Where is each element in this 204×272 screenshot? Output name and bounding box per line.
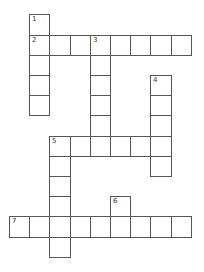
crossword-cell[interactable]: 7 bbox=[9, 216, 30, 238]
crossword-cell[interactable] bbox=[90, 75, 111, 96]
crossword-cell[interactable] bbox=[90, 55, 111, 76]
crossword-cell[interactable] bbox=[150, 216, 172, 238]
crossword-cell[interactable] bbox=[49, 237, 71, 258]
crossword-cell[interactable] bbox=[29, 75, 50, 96]
crossword-cell[interactable] bbox=[70, 216, 91, 238]
clue-number: 7 bbox=[12, 217, 16, 226]
clue-number: 4 bbox=[153, 76, 157, 85]
crossword-cell[interactable] bbox=[29, 55, 50, 76]
crossword-cell[interactable] bbox=[110, 35, 131, 56]
crossword-cell[interactable] bbox=[49, 176, 71, 197]
crossword-cell[interactable] bbox=[150, 35, 172, 56]
crossword-cell[interactable] bbox=[49, 156, 71, 177]
crossword-grid: 1234567 bbox=[0, 0, 204, 272]
crossword-cell[interactable]: 1 bbox=[29, 14, 50, 36]
crossword-cell[interactable] bbox=[49, 196, 71, 217]
crossword-cell[interactable] bbox=[150, 115, 172, 137]
crossword-cell[interactable] bbox=[29, 95, 50, 116]
crossword-cell[interactable] bbox=[171, 35, 192, 56]
crossword-cell[interactable] bbox=[90, 115, 111, 137]
crossword-cell[interactable] bbox=[49, 216, 71, 238]
crossword-cell[interactable] bbox=[90, 216, 111, 238]
crossword-cell[interactable]: 2 bbox=[29, 35, 50, 56]
crossword-cell[interactable] bbox=[90, 95, 111, 116]
crossword-cell[interactable]: 3 bbox=[90, 35, 111, 56]
clue-number: 6 bbox=[113, 197, 117, 206]
clue-number: 3 bbox=[93, 36, 97, 45]
crossword-cell[interactable] bbox=[110, 136, 131, 157]
crossword-cell[interactable] bbox=[130, 35, 151, 56]
crossword-cell[interactable] bbox=[70, 35, 91, 56]
crossword-cell[interactable] bbox=[49, 35, 71, 56]
crossword-cell[interactable] bbox=[110, 216, 131, 238]
clue-number: 5 bbox=[52, 137, 56, 146]
crossword-cell[interactable] bbox=[29, 216, 50, 238]
crossword-cell[interactable] bbox=[150, 156, 172, 177]
crossword-cell[interactable] bbox=[130, 136, 151, 157]
crossword-cell[interactable] bbox=[130, 216, 151, 238]
crossword-cell[interactable] bbox=[150, 136, 172, 157]
crossword-cell[interactable] bbox=[70, 136, 91, 157]
crossword-cell[interactable] bbox=[171, 216, 192, 238]
crossword-cell[interactable]: 6 bbox=[110, 196, 131, 217]
clue-number: 2 bbox=[32, 36, 36, 45]
crossword-cell[interactable]: 5 bbox=[49, 136, 71, 157]
clue-number: 1 bbox=[32, 15, 36, 24]
crossword-cell[interactable]: 4 bbox=[150, 75, 172, 96]
crossword-cell[interactable] bbox=[90, 136, 111, 157]
crossword-cell[interactable] bbox=[150, 95, 172, 116]
